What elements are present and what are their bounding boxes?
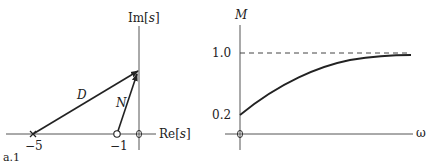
magnitude-plot	[225, 25, 413, 150]
vector-n-label: N	[116, 97, 127, 109]
y-tick-0-2: 0.2	[212, 109, 231, 121]
tick-label-minus-1: −1	[110, 140, 128, 152]
figure-label: a.1	[3, 152, 20, 163]
y-tick-1-0: 1.0	[212, 47, 231, 59]
m-axis-label: M	[235, 9, 247, 21]
zero-marker-icon	[114, 131, 120, 137]
vector-d-label: D	[77, 89, 87, 101]
figure: Im[s] Re[s] −5 −1 D N a.1 M 1.0 0.2 ω	[0, 0, 427, 168]
diagram-graphics	[0, 0, 427, 168]
imag-axis-label: Im[s]	[128, 12, 160, 24]
magnitude-curve	[240, 55, 411, 115]
omega-axis-label: ω	[416, 127, 426, 139]
tick-label-minus-5: −5	[25, 140, 43, 152]
real-axis-label: Re[s]	[159, 128, 191, 140]
